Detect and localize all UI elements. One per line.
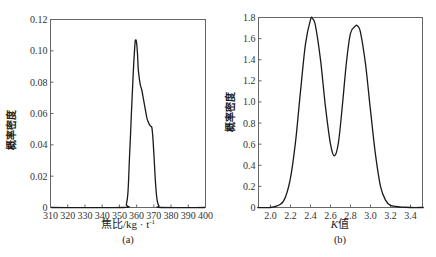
figure: 00.020.040.060.080.100.12 31032033034035… — [0, 0, 436, 257]
chart-a: 00.020.040.060.080.100.12 31032033034035… — [5, 14, 213, 246]
x-tick-label: 3.2 — [384, 210, 397, 221]
x-tick-label: 2.2 — [284, 210, 297, 221]
y-tick-label: 0.8 — [243, 118, 256, 129]
density-curve-b — [258, 17, 423, 208]
density-curve-a — [51, 40, 205, 208]
y-tick-label: 0.4 — [243, 160, 256, 171]
y-tick-label: 1.6 — [243, 33, 256, 44]
y-tick-label: 0.6 — [243, 139, 256, 150]
y-tick-label: 0.08 — [30, 77, 48, 88]
chart-b: 00.20.40.60.81.01.21.41.61.8 2.02.22.42.… — [224, 12, 423, 246]
x-tick-label: 320 — [60, 210, 75, 221]
y-axis-label-a: 概率密度 — [5, 109, 17, 150]
y-tick-label: 0.06 — [30, 108, 48, 119]
x-tick-label: 3.4 — [404, 210, 417, 221]
x-tick-label: 400 — [198, 210, 213, 221]
y-axis-a: 00.020.040.060.080.100.12 — [30, 14, 54, 213]
y-tick-label: 1.2 — [243, 75, 256, 86]
y-tick-label: 0.10 — [30, 45, 48, 56]
y-tick-label: 1.8 — [243, 12, 256, 23]
x-tick-label: 330 — [77, 210, 92, 221]
y-tick-label: 1.0 — [243, 96, 256, 107]
y-axis-label-b: 概率密度 — [224, 91, 236, 132]
x-axis-label-b: K值 — [330, 218, 349, 230]
plot-frame-b — [259, 18, 423, 208]
x-tick-label: 310 — [43, 210, 58, 221]
y-tick-label: 1.4 — [243, 54, 256, 65]
y-tick-label: 0 — [251, 202, 256, 213]
caption-a: (a) — [122, 234, 134, 246]
y-tick-label: 0.12 — [30, 14, 48, 25]
y-tick-label: 0.2 — [243, 181, 256, 192]
x-axis-label-a: 焦比/kg · t-1 — [101, 218, 156, 230]
x-tick-label: 2.4 — [304, 210, 317, 221]
y-tick-label: 0.02 — [30, 171, 48, 182]
x-tick-label: 380 — [164, 210, 179, 221]
x-tick-label: 3.0 — [364, 210, 377, 221]
x-tick-label: 2.0 — [264, 210, 277, 221]
x-tick-label: 390 — [181, 210, 196, 221]
y-tick-label: 0.04 — [30, 139, 48, 150]
caption-b: (b) — [334, 234, 347, 246]
